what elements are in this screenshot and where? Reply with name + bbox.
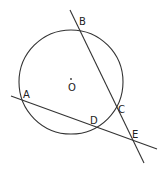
label-E: E — [132, 129, 138, 140]
label-C: C — [118, 104, 125, 115]
geometry-diagram: O B A C D E — [0, 0, 165, 171]
label-D: D — [90, 115, 98, 126]
diagram-canvas: O B A C D E — [0, 0, 165, 171]
label-O: O — [68, 82, 76, 93]
line-AE — [11, 96, 157, 149]
label-A: A — [23, 89, 30, 100]
label-B: B — [79, 16, 86, 27]
center-dot — [70, 78, 72, 80]
